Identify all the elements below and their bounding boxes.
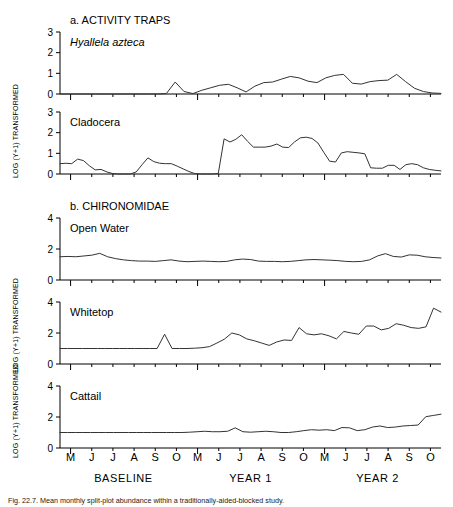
x-tick-label: A [257, 451, 265, 463]
y-tick-label: 2 [47, 47, 53, 58]
panel-title: Hyallela azteca [70, 36, 145, 48]
series-line [60, 74, 441, 94]
series-line [60, 135, 441, 174]
panel-title: Cattail [70, 390, 101, 402]
x-tick-label: S [152, 451, 159, 463]
x-tick-label: O [426, 451, 435, 463]
y-tick-label: 1 [47, 148, 53, 159]
y-tick-label: 0 [47, 275, 53, 286]
figure-root: 0123Hyallela azteca0123Cladocera024Open … [0, 0, 453, 507]
y-tick-label: 2 [47, 244, 53, 255]
x-tick-label: J [343, 451, 349, 463]
x-axis-labels: MJJASOMJJASOMJJASO [0, 450, 453, 470]
x-tick-label: J [364, 451, 370, 463]
y-axis-title: LOG (Y+1) TRANSFORMED [12, 364, 19, 458]
y-tick-label: 4 [47, 297, 53, 308]
x-tick-label: S [279, 451, 286, 463]
x-tick-label: S [406, 451, 413, 463]
y-tick-label: 3 [47, 27, 53, 38]
y-tick-label: 4 [47, 381, 53, 392]
x-tick-label: J [110, 451, 116, 463]
y-tick-label: 4 [47, 213, 53, 224]
panel-hyallela-azteca: 0123Hyallela azteca [0, 20, 453, 108]
x-tick-label: M [193, 451, 202, 463]
x-tick-label: J [89, 451, 95, 463]
series-line [60, 414, 441, 432]
panel-title: Cladocera [70, 116, 121, 128]
y-axis-title: LOG (Y+1) TRANSFORMED [12, 84, 19, 178]
y-axis-title: LOG (Y+1) TRANSFORMED [12, 278, 19, 372]
figure-caption: Fig. 22.7. Mean monthly split-plot abund… [0, 496, 453, 507]
panel-cattail: 024Cattail [0, 374, 453, 462]
y-tick-label: 2 [47, 412, 53, 423]
panel-title: Whitetop [70, 306, 113, 318]
series-line [60, 308, 441, 348]
panel-whitetop: 024Whitetop [0, 290, 453, 378]
x-tick-label: A [130, 451, 138, 463]
x-tick-label: M [66, 451, 75, 463]
y-tick-label: 1 [47, 68, 53, 79]
y-tick-label: 0 [47, 169, 53, 180]
x-tick-label: J [216, 451, 222, 463]
x-tick-label: A [384, 451, 392, 463]
y-tick-label: 2 [47, 127, 53, 138]
x-tick-label: O [299, 451, 308, 463]
panel-title: Open Water [70, 222, 129, 234]
y-tick-label: 0 [47, 89, 53, 100]
panel-open-water: 024Open Water [0, 206, 453, 294]
section-title-activity-traps: a. ACTIVITY TRAPS [70, 14, 170, 26]
period-label-year-2: YEAR 2 [314, 472, 441, 484]
panel-cladocera: 0123Cladocera [0, 100, 453, 188]
series-line [60, 253, 441, 261]
x-tick-label: J [237, 451, 243, 463]
x-tick-label: O [172, 451, 181, 463]
section-title-chironomidae: b. CHIRONOMIDAE [70, 200, 169, 212]
y-tick-label: 0 [47, 359, 53, 370]
y-tick-label: 3 [47, 107, 53, 118]
period-label-baseline: BASELINE [60, 472, 187, 484]
period-label-year-1: YEAR 1 [187, 472, 314, 484]
y-tick-label: 2 [47, 328, 53, 339]
x-tick-label: M [320, 451, 329, 463]
